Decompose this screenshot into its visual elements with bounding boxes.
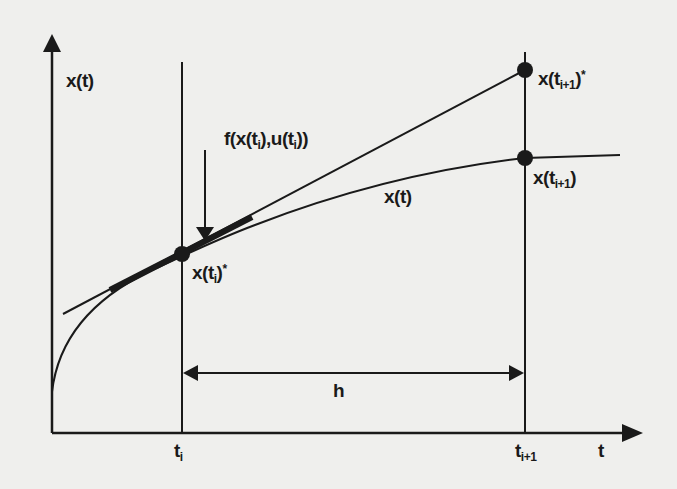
x-axis-label: t <box>598 440 604 462</box>
step-size-label: h <box>333 380 344 402</box>
h-arrowhead-right <box>509 365 524 381</box>
point-x-ti-star <box>174 246 190 262</box>
x-ti1-star-label: x(ti+1)* <box>538 68 585 92</box>
y-axis-label: x(t) <box>66 70 94 92</box>
x-tick-ti: ti <box>174 440 183 464</box>
point-x-ti1-star <box>517 62 533 78</box>
x-ti-star-label: x(ti)* <box>192 262 227 286</box>
x-tick-ti1: ti+1 <box>515 440 536 464</box>
slope-label: f(x(ti),u(ti)) <box>224 128 308 152</box>
h-arrowhead-left <box>183 365 198 381</box>
euler-step-diagram: x(t) f(x(ti),u(ti)) x(ti+1)* x(ti+1) x(t… <box>0 0 677 489</box>
x-ti1-label: x(ti+1) <box>533 167 576 191</box>
point-x-ti1 <box>517 150 533 166</box>
y-axis-arrowhead <box>43 34 61 52</box>
x-axis-arrowhead <box>622 424 643 442</box>
curve-label: x(t) <box>384 186 412 208</box>
